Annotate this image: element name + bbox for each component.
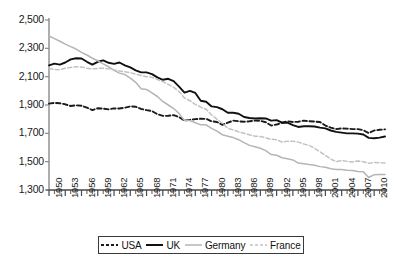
x-tick-label: 1983 [232, 178, 243, 198]
x-tick-label: 1965 [134, 178, 145, 198]
x-tick-label: 1953 [69, 178, 80, 198]
legend-swatch-france-icon [250, 241, 267, 249]
y-tick-label: 2,500 [0, 13, 44, 25]
y-tick-label: 2,300 [0, 41, 44, 53]
x-tick-label: 1974 [183, 178, 194, 198]
x-tick-label: 1980 [216, 178, 227, 198]
y-tick-label: 1,900 [0, 98, 44, 110]
x-tick-label: 1950 [53, 178, 64, 198]
legend-label: France [270, 240, 301, 251]
x-tick-label: 2010 [378, 178, 389, 198]
x-tick-label: 1962 [118, 178, 129, 198]
x-tick-label: 1986 [248, 178, 259, 198]
legend-swatch-germany-icon [185, 241, 202, 249]
x-tick-label: 1989 [264, 178, 275, 198]
x-tick-label: 2007 [362, 178, 373, 198]
chart-legend: USAUKGermanyFrance [98, 236, 304, 254]
legend-swatch-uk-icon [146, 241, 163, 249]
y-tick-label: 1,700 [0, 126, 44, 138]
x-tick-label: 1971 [167, 178, 178, 198]
series-line-uk [49, 58, 385, 138]
chart-figure: 1,3001,5001,7001,9002,1002,3002,500 1950… [0, 0, 397, 264]
series-line-france [49, 67, 385, 164]
x-tick-label: 1968 [151, 178, 162, 198]
legend-entry-germany: Germany [185, 240, 245, 251]
legend-entry-usa: USA [101, 240, 141, 251]
legend-swatch-usa-icon [101, 241, 118, 249]
y-tick-label: 2,100 [0, 70, 44, 82]
x-tick-label: 2004 [346, 178, 357, 198]
legend-entry-uk: UK [146, 240, 180, 251]
x-tick-label: 1992 [281, 178, 292, 198]
legend-label: Germany [205, 240, 245, 251]
x-tick-label: 1977 [199, 178, 210, 198]
x-tick-label: 1959 [102, 178, 113, 198]
legend-label: UK [166, 240, 180, 251]
line-chart-canvas [0, 0, 397, 264]
y-tick-label: 1,300 [0, 183, 44, 195]
y-tick-label: 1,500 [0, 155, 44, 167]
x-tick-label: 1998 [313, 178, 324, 198]
x-tick-label: 1956 [86, 178, 97, 198]
x-tick-label: 2001 [329, 178, 340, 198]
legend-entry-france: France [250, 240, 301, 251]
legend-label: USA [121, 240, 141, 251]
x-tick-label: 1995 [297, 178, 308, 198]
